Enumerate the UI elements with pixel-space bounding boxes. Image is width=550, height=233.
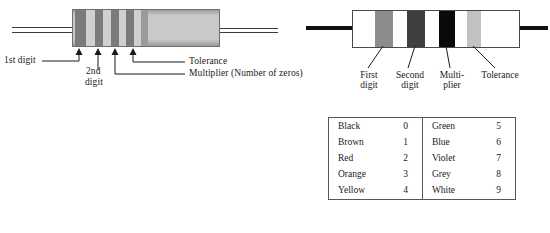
cell-value-right: 8: [482, 167, 515, 183]
left-resistor-body: [72, 9, 220, 47]
label-multiplier-line2: plier: [432, 80, 472, 91]
cell-value-right: 5: [482, 118, 515, 135]
cell-colour-right: Violet: [422, 150, 482, 166]
leader-second-digit: [408, 46, 415, 68]
cell-colour-left: Black: [329, 118, 390, 135]
table-row: Red 2 Violet 7: [329, 150, 516, 166]
cell-value-left: 0: [389, 118, 422, 135]
cell-value-left: 3: [389, 167, 422, 183]
cell-value-right: 6: [482, 134, 515, 150]
cell-colour-left: Brown: [329, 134, 390, 150]
cell-colour-left: Yellow: [329, 183, 390, 200]
label-1st-digit: 1st digit: [4, 55, 36, 66]
left-band-2nd-digit: [95, 10, 103, 46]
leader-first-digit: [368, 46, 383, 68]
left-band-1st-digit: [75, 10, 86, 46]
right-resistor-illustration: First digit Second digit Multi- plier To…: [300, 0, 550, 105]
figure-canvas: 1st digit 2nd digit Tolerance Multiplier…: [0, 0, 550, 233]
leader-1st-digit: [42, 55, 79, 61]
label-first-digit-line1: First: [348, 70, 390, 81]
cell-value-right: 7: [482, 150, 515, 166]
table-row: Black 0 Green 5: [329, 118, 516, 135]
cell-colour-right: Grey: [422, 167, 482, 183]
colour-code-table-body: Black 0 Green 5 Brown 1 Blue 6 Red 2 Vio…: [329, 118, 516, 200]
leader-multiplier-right: [446, 46, 450, 68]
table-row: Brown 1 Blue 6: [329, 134, 516, 150]
label-multiplier: Multiplier (Number of zeros): [189, 68, 303, 79]
label-2nd-digit-line1: 2nd: [86, 66, 101, 77]
left-band-edge: [141, 10, 148, 46]
label-first-digit-line2: digit: [348, 80, 390, 91]
left-resistor-illustration: 1st digit 2nd digit Tolerance Multiplier…: [0, 0, 290, 105]
cell-value-left: 1: [389, 134, 422, 150]
cell-value-left: 4: [389, 183, 422, 200]
cell-value-left: 2: [389, 150, 422, 166]
left-resistor-lead-wire-left: [12, 27, 74, 33]
left-band-tolerance: [126, 10, 134, 46]
table-row: Orange 3 Grey 8: [329, 167, 516, 183]
arrow-1st-digit: [76, 48, 83, 55]
left-band-gap-1: [86, 10, 95, 46]
label-second-digit-line2: digit: [388, 80, 432, 91]
label-tolerance: Tolerance: [189, 56, 227, 67]
label-multiplier-line1: Multi-: [432, 70, 472, 81]
cell-colour-right: White: [422, 183, 482, 200]
colour-code-table: Black 0 Green 5 Brown 1 Blue 6 Red 2 Vio…: [328, 117, 516, 200]
left-band-gap-4: [134, 10, 141, 46]
left-band-gap-3: [119, 10, 126, 46]
label-second-digit-line1: Second: [388, 70, 432, 81]
label-tolerance-right: Tolerance: [472, 70, 528, 81]
left-band-gap-2: [103, 10, 111, 46]
arrow-multiplier: [112, 48, 119, 55]
arrow-tolerance: [130, 48, 137, 55]
cell-colour-right: Blue: [422, 134, 482, 150]
leader-multiplier: [115, 55, 185, 74]
leader-tolerance-right: [473, 46, 495, 68]
cell-colour-left: Red: [329, 150, 390, 166]
cell-colour-right: Green: [422, 118, 482, 135]
arrow-2nd-digit: [95, 48, 102, 55]
cell-value-right: 9: [482, 183, 515, 200]
label-2nd-digit-line2: digit: [85, 77, 103, 88]
cell-colour-left: Orange: [329, 167, 390, 183]
left-resistor-lead-wire-right: [216, 28, 278, 33]
leader-tolerance: [133, 55, 185, 62]
table-row: Yellow 4 White 9: [329, 183, 516, 200]
left-band-multiplier: [111, 10, 119, 46]
